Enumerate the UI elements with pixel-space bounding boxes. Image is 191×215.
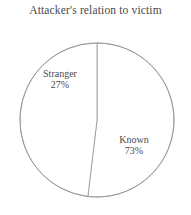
pie-label-known-value: 73% bbox=[92, 145, 176, 156]
pie-label-stranger-value: 27% bbox=[18, 79, 102, 90]
pie-label-known: Known 73% bbox=[92, 134, 176, 156]
pie-label-stranger-name: Stranger bbox=[43, 68, 77, 79]
pie-slice-stranger bbox=[20, 43, 97, 196]
pie-label-stranger: Stranger 27% bbox=[18, 68, 102, 90]
pie-chart-figure: Attacker's relation to victim Stranger 2… bbox=[0, 0, 191, 215]
pie-slice-known bbox=[88, 43, 174, 197]
pie-chart-graphic bbox=[0, 0, 191, 215]
pie-label-known-name: Known bbox=[119, 134, 148, 145]
